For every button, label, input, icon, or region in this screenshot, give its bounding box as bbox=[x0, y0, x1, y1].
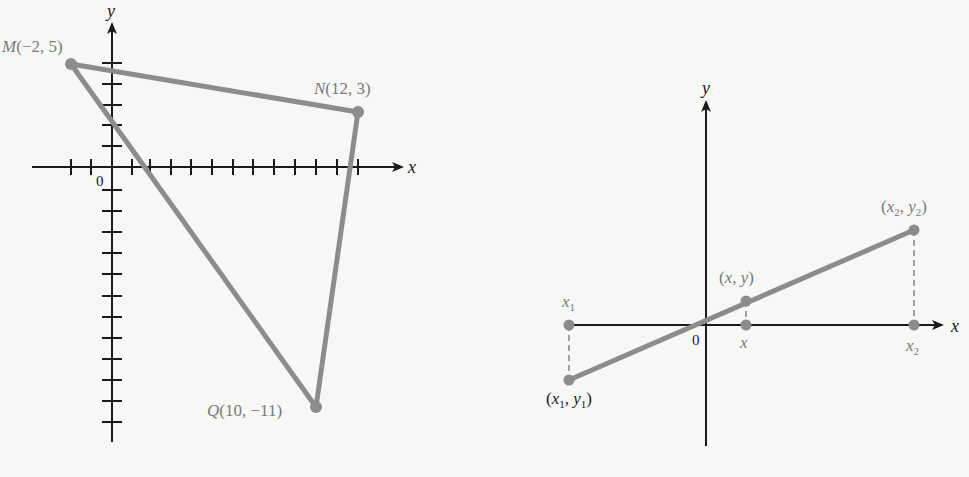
point-m bbox=[65, 58, 77, 70]
label-point-m: M(−2, 5) bbox=[1, 37, 63, 56]
label-point-q: Q(10, −11) bbox=[207, 401, 282, 420]
point-p2 bbox=[909, 225, 920, 236]
label-point-p2: (x2, y2) bbox=[881, 197, 927, 218]
point-n bbox=[352, 106, 364, 118]
label-point-n: N(12, 3) bbox=[313, 79, 371, 98]
label-point-p1: (x1, y1) bbox=[546, 389, 592, 410]
label-x2: x2 bbox=[905, 336, 919, 357]
right-coordinate-plane: y x 0 x1 x x2 (x1, y1) (x, y) bbox=[546, 78, 959, 446]
point-x-on-axis bbox=[741, 320, 752, 331]
segment-p1-p2 bbox=[569, 230, 914, 380]
left-x-axis-label: x bbox=[407, 157, 416, 177]
left-origin-label: 0 bbox=[96, 173, 104, 189]
point-p1 bbox=[564, 375, 575, 386]
label-x: x bbox=[739, 333, 748, 352]
left-y-axis-label: y bbox=[105, 1, 115, 21]
triangle-mnq bbox=[71, 64, 358, 407]
point-q bbox=[310, 401, 322, 413]
left-coordinate-plane: y x 0 M(−2, 5) N(12, 3) Q(10, −11) bbox=[1, 1, 416, 442]
point-x2-on-axis bbox=[909, 320, 920, 331]
figure-canvas: y x 0 M(−2, 5) N(12, 3) Q(10, −11) y x 0 bbox=[0, 0, 969, 477]
label-x1: x1 bbox=[561, 292, 575, 313]
segment-nq bbox=[316, 112, 358, 407]
point-x1-on-axis bbox=[564, 320, 575, 331]
point-p bbox=[741, 296, 752, 307]
right-y-axis-label: y bbox=[700, 78, 710, 98]
right-origin-label: 0 bbox=[692, 332, 700, 348]
segment-qm bbox=[71, 64, 316, 407]
label-point-p: (x, y) bbox=[719, 268, 754, 287]
right-x-axis-label: x bbox=[950, 316, 959, 336]
